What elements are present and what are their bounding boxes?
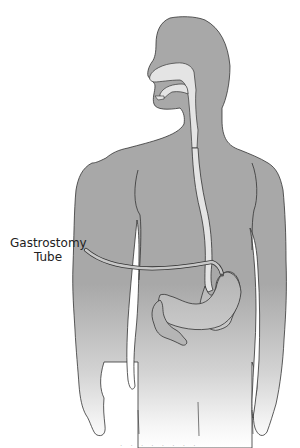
gastrostomy-tube-label-line2: Tube bbox=[10, 250, 86, 264]
tube-tip bbox=[220, 274, 224, 277]
anatomy-illustration bbox=[0, 0, 300, 448]
gastrostomy-tube-label-line1: Gastrostomy bbox=[10, 236, 86, 250]
gastrostomy-tube-label: Gastrostomy Tube bbox=[10, 236, 86, 264]
figure-caption: . . . . . . . . bbox=[120, 440, 290, 448]
